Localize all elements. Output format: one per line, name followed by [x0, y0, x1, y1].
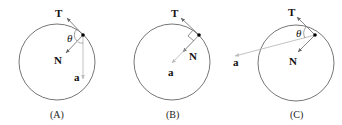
caption-c: (C) [290, 109, 303, 121]
caption-a: (A) [50, 109, 64, 121]
label-n-a: N [54, 54, 62, 66]
label-theta-c: θ [296, 27, 302, 39]
right-angle-marker-b [188, 30, 194, 41]
label-n-c: N [289, 55, 297, 67]
diagram-c: T θ N a (C) [233, 6, 334, 121]
label-t-b: T [171, 7, 179, 19]
tension-vector-b [181, 18, 199, 35]
label-n-b: N [189, 50, 197, 62]
angle-arc-a [74, 29, 77, 41]
label-t-a: T [55, 7, 63, 19]
diagram-canvas: T θ N a (A) T N a (B) T θ N a (C) [0, 0, 342, 125]
label-a-b: a [168, 66, 174, 78]
angle-arc-a2 [78, 42, 83, 43]
angle-arc-c [304, 27, 306, 38]
label-theta-a: θ [67, 32, 73, 44]
diagram-a: T θ N a (A) [19, 7, 95, 121]
point-c [313, 33, 317, 37]
point-b [197, 33, 201, 37]
label-t-c: T [288, 6, 296, 18]
acceleration-vector-c [235, 35, 315, 56]
label-a-a: a [74, 71, 80, 83]
label-a-c: a [233, 56, 239, 68]
diagram-b: T N a (B) [134, 7, 210, 121]
point-a [81, 33, 85, 37]
caption-b: (B) [166, 109, 179, 121]
